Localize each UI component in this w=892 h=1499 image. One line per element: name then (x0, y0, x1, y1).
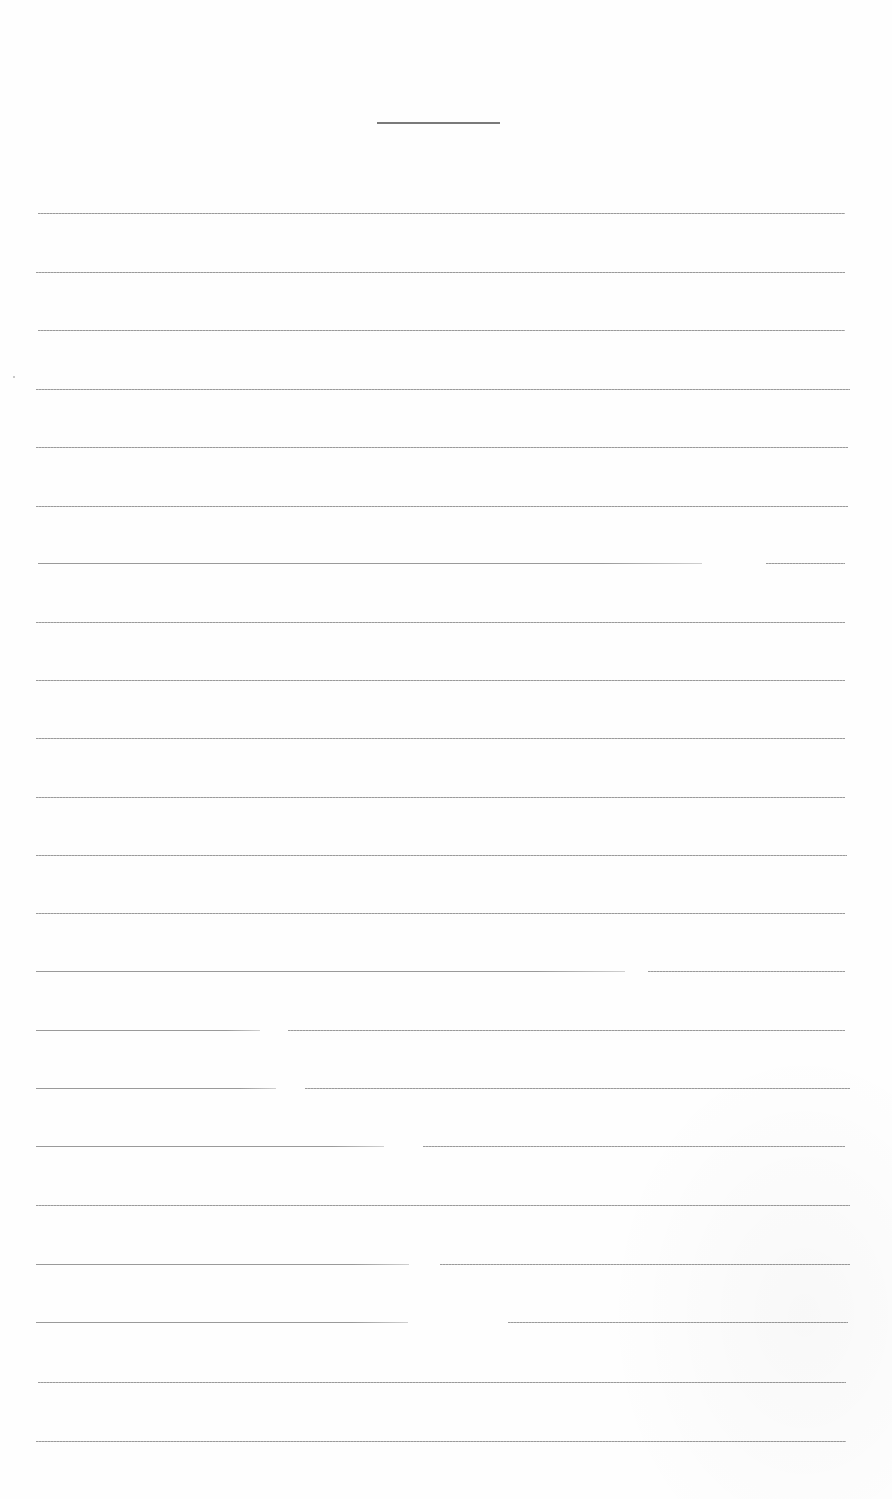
ruled-line (0, 330, 892, 331)
ruled-line (0, 213, 892, 214)
ruled-line (0, 447, 892, 448)
ruled-line-segment (38, 330, 845, 331)
ruled-line (0, 797, 892, 798)
ruled-line (0, 1441, 892, 1442)
ruled-line-segment (36, 1146, 384, 1147)
ruled-line (0, 622, 892, 623)
ruled-line-segment (508, 1322, 848, 1323)
ruled-line (0, 272, 892, 273)
ruled-line-segment (36, 855, 847, 856)
ruled-line (0, 506, 892, 507)
ruled-line-segment (36, 506, 848, 507)
ruled-line-segment (766, 563, 845, 564)
ruled-line (0, 1030, 892, 1031)
ruled-line-segment (36, 1088, 276, 1089)
ruled-line-segment (36, 797, 845, 798)
ruled-line-segment (36, 680, 845, 681)
ruled-line-segment (36, 1322, 408, 1323)
ruled-line (0, 563, 892, 564)
ruled-line-segment (36, 1030, 260, 1031)
margin-speck (13, 376, 15, 378)
ruled-line (0, 971, 892, 972)
ruled-line (0, 855, 892, 856)
ruled-line-segment (38, 1382, 846, 1383)
ruled-line-segment (305, 1088, 850, 1089)
ruled-line-segment (36, 1205, 850, 1206)
ruled-line-segment (36, 1264, 409, 1265)
ruled-line-segment (38, 213, 845, 214)
ruled-line-segment (36, 622, 845, 623)
ruled-line (0, 738, 892, 739)
paper-texture-watermark (600, 1040, 892, 1499)
ruled-line-segment (36, 913, 845, 914)
ruled-line-segment (36, 738, 845, 739)
ruled-line (0, 1146, 892, 1147)
lined-paper-page (0, 0, 892, 1499)
ruled-line-segment (288, 1030, 845, 1031)
ruled-line-segment (440, 1264, 850, 1265)
title-underline (377, 122, 500, 124)
ruled-line (0, 680, 892, 681)
ruled-line (0, 1322, 892, 1323)
ruled-line-segment (36, 1441, 846, 1442)
ruled-line-segment (38, 563, 702, 564)
ruled-line (0, 389, 892, 390)
ruled-line-segment (423, 1146, 845, 1147)
ruled-line-segment (36, 389, 850, 390)
ruled-line-segment (648, 971, 845, 972)
ruled-line (0, 1205, 892, 1206)
ruled-line-segment (36, 272, 845, 273)
ruled-line (0, 1382, 892, 1383)
ruled-line-segment (36, 971, 625, 972)
ruled-line-segment (36, 447, 848, 448)
ruled-line (0, 1088, 892, 1089)
ruled-line (0, 1264, 892, 1265)
ruled-line (0, 913, 892, 914)
